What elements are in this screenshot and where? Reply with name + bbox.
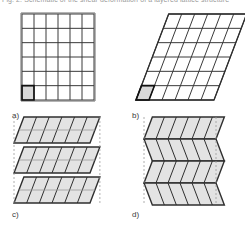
figure-caption-text: Fig. 2. Schematic of the shear deformati… [0,0,245,4]
panel-c-diagram [0,113,122,225]
panel-b: b) [122,10,245,115]
panel-b-diagram [122,10,245,115]
highlight-cell [22,86,34,100]
panel-d: d) [122,113,245,225]
panel-c-label: c) [12,210,19,219]
panel-c: c) [0,113,122,225]
panel-a-diagram [0,10,122,115]
figure-root: Fig. 2. Schematic of the shear deformati… [0,0,245,225]
panel-a: a) [0,10,122,115]
panel-d-label: d) [132,210,139,219]
figure-caption-top: Fig. 2. Schematic of the shear deformati… [0,0,245,7]
panel-d-diagram [122,113,245,225]
